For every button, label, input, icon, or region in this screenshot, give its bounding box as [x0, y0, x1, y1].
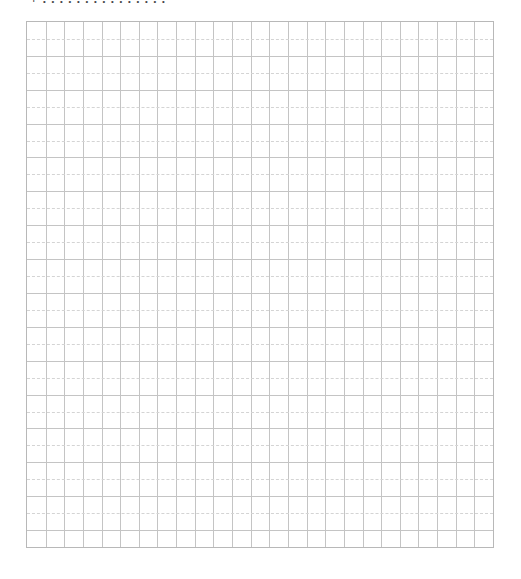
grid-column-line	[325, 22, 326, 547]
grid-row-line	[27, 395, 493, 396]
grid-row-line	[27, 259, 493, 260]
grid-column-line	[363, 22, 364, 547]
grid-column-line	[251, 22, 252, 547]
grid-column-line	[307, 22, 308, 547]
grid-column-line	[474, 22, 475, 547]
grid-row-line	[27, 496, 493, 497]
grid-row-line	[27, 56, 493, 57]
grid-row-line-dashed	[27, 141, 493, 142]
grid-row-line-dashed	[27, 208, 493, 209]
grid-column-line	[120, 22, 121, 547]
grid-row-line	[27, 293, 493, 294]
grid-column-line	[83, 22, 84, 547]
grid-row-line	[27, 157, 493, 158]
grid-column-line	[269, 22, 270, 547]
grid-row-line-dashed	[27, 107, 493, 108]
grid-column-line	[102, 22, 103, 547]
page-title: + . . . . . . . . . . . . . . .	[30, 0, 166, 7]
grid-column-line	[176, 22, 177, 547]
grid-column-line	[139, 22, 140, 547]
grid-column-line	[456, 22, 457, 547]
grid-row-line	[27, 191, 493, 192]
grid-column-line	[46, 22, 47, 547]
grid-column-line	[157, 22, 158, 547]
grid-row-line	[27, 327, 493, 328]
grid-row-line-dashed	[27, 73, 493, 74]
grid-column-line	[381, 22, 382, 547]
grid-row-line	[27, 361, 493, 362]
grid-row-line-dashed	[27, 513, 493, 514]
grid-row-line-dashed	[27, 378, 493, 379]
grid-row-line-dashed	[27, 174, 493, 175]
grid-column-line	[195, 22, 196, 547]
grid-column-line	[437, 22, 438, 547]
grid-column-line	[400, 22, 401, 547]
grid-column-line	[64, 22, 65, 547]
grid-row-line	[27, 462, 493, 463]
grid-row-line-dashed	[27, 445, 493, 446]
grid-row-line-dashed	[27, 276, 493, 277]
grid-row-line	[27, 124, 493, 125]
grid-row-line	[27, 90, 493, 91]
grid-row-line	[27, 225, 493, 226]
grid-row-line-dashed	[27, 412, 493, 413]
grid-column-line	[344, 22, 345, 547]
grid-row-line-dashed	[27, 479, 493, 480]
grid-row-line-dashed	[27, 344, 493, 345]
grid-row-line-dashed	[27, 39, 493, 40]
grid-column-line	[288, 22, 289, 547]
grid-row-line	[27, 530, 493, 531]
grid-row-line-dashed	[27, 242, 493, 243]
grid-column-line	[232, 22, 233, 547]
grid-row-line-dashed	[27, 310, 493, 311]
grid-column-line	[213, 22, 214, 547]
grid-paper	[26, 21, 494, 548]
grid-row-line	[27, 428, 493, 429]
grid-column-line	[418, 22, 419, 547]
